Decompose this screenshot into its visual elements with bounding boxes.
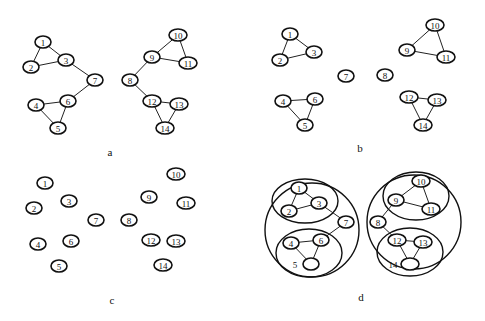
node-9: 9	[141, 191, 157, 203]
node-label: 3	[64, 56, 69, 66]
node-13: 13	[170, 98, 188, 110]
node-label: 9	[147, 193, 152, 203]
node-label: 11	[182, 199, 191, 209]
panel-caption: c	[110, 294, 115, 306]
node-label: 7	[344, 72, 349, 82]
node-14: 14	[414, 119, 432, 131]
node-label: 12	[147, 236, 156, 246]
node-label: 12	[393, 236, 402, 246]
node-7: 7	[88, 214, 104, 226]
node-3: 3	[61, 195, 77, 207]
node-10: 10	[169, 29, 187, 41]
node-1: 1	[35, 36, 51, 48]
node-2: 2	[272, 54, 288, 66]
node-4: 4	[28, 99, 44, 111]
node-1: 1	[291, 182, 307, 194]
node-label: 14	[159, 261, 169, 271]
node-7: 7	[87, 74, 103, 86]
panel-d: 1234567891011121314d	[265, 172, 461, 303]
node-label: 8	[127, 216, 132, 226]
node-8: 8	[121, 214, 137, 226]
node-4: 4	[30, 238, 46, 250]
node-label: 2	[278, 56, 283, 66]
node-13: 13	[428, 94, 446, 106]
node-9: 9	[144, 51, 160, 63]
node-6: 6	[313, 234, 329, 246]
node-13: 13	[167, 235, 185, 247]
node-4: 4	[275, 95, 291, 107]
node-label: 2	[29, 63, 34, 73]
panel-b: 1234567891011121314b	[272, 19, 455, 154]
node-8: 8	[377, 69, 393, 81]
panel-a: 1234567891011121314a	[23, 29, 197, 158]
panel-caption: d	[358, 291, 364, 303]
node-label: 4	[36, 240, 41, 250]
node-label: 1	[41, 38, 46, 48]
node-label: 8	[376, 218, 381, 228]
node-label: 13	[433, 96, 443, 106]
panel-caption: a	[108, 146, 113, 158]
node-9: 9	[388, 194, 404, 206]
node-label: 12	[148, 97, 157, 107]
node-9: 9	[399, 44, 415, 56]
node-label: 13	[175, 100, 185, 110]
node-11: 11	[177, 197, 195, 209]
node-label: 4	[289, 239, 294, 249]
node-label: 7	[93, 76, 98, 86]
node-label: 9	[405, 46, 410, 56]
node-5: 5	[51, 260, 67, 272]
node-11: 11	[422, 203, 440, 215]
node-1: 1	[282, 28, 298, 40]
node-label: 4	[34, 101, 39, 111]
node-label: 5	[303, 121, 308, 131]
node-6: 6	[63, 235, 79, 247]
node-2: 2	[281, 205, 297, 217]
node-label: 8	[383, 71, 388, 81]
node-label: 3	[312, 48, 317, 58]
node-label: 1	[43, 179, 48, 189]
node-3: 3	[58, 54, 74, 66]
node-label: 11	[184, 59, 193, 69]
node-label: 11	[442, 53, 451, 63]
node-label: 5	[57, 262, 62, 272]
node-label: 4	[281, 97, 286, 107]
node-10: 10	[426, 19, 444, 31]
node-11: 11	[437, 51, 455, 63]
node-label: 11	[427, 205, 436, 215]
node-label: 9	[150, 53, 155, 63]
node-1: 1	[37, 177, 53, 189]
node-label: 10	[417, 177, 427, 187]
node-label: 6	[313, 95, 318, 105]
node-12: 12	[400, 91, 418, 103]
node-label: 7	[94, 216, 99, 226]
panel-c: 1234567891011121314c	[26, 168, 195, 306]
node-label: 10	[172, 170, 182, 180]
node-12: 12	[143, 95, 161, 107]
node-label: 3	[317, 199, 322, 209]
node-label: 14	[161, 124, 171, 134]
node-label: 3	[67, 197, 72, 207]
node-label: 6	[66, 97, 71, 107]
node-3: 3	[311, 197, 327, 209]
node-2: 2	[23, 61, 39, 73]
node-5: 5	[297, 119, 313, 131]
node-label: 8	[128, 76, 133, 86]
node-label: 12	[405, 93, 414, 103]
node-13: 13	[414, 236, 432, 248]
node-11: 11	[179, 57, 197, 69]
panel-caption: b	[357, 142, 363, 154]
node-2: 2	[26, 202, 42, 214]
node-4: 4	[283, 237, 299, 249]
node-10: 10	[167, 168, 185, 180]
node-8: 8	[122, 74, 138, 86]
node-12: 12	[388, 234, 406, 246]
node-3: 3	[306, 46, 322, 58]
node-label: 13	[419, 238, 429, 248]
node-label: 13	[172, 237, 182, 247]
node-label: 1	[297, 184, 302, 194]
node-external-label: 14	[389, 260, 399, 270]
node-5	[303, 258, 319, 270]
node-external-label: 5	[293, 260, 298, 270]
node-5: 5	[50, 122, 66, 134]
node-label: 7	[344, 218, 349, 228]
